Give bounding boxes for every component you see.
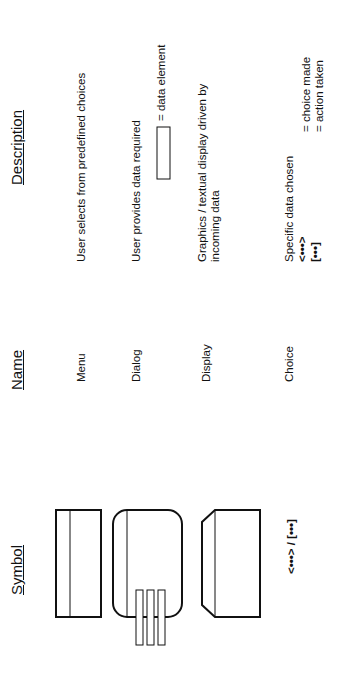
name-choice: Choice (283, 346, 296, 382)
description-display-line2: incoming data (209, 190, 222, 262)
data-element-legend: = data element (155, 45, 168, 121)
choice-made-symbol: <•••> (296, 236, 309, 262)
choice-symbol-text: <•••> / [•••] (285, 519, 298, 574)
dialog-symbol-icon (113, 510, 182, 645)
description-choice: Specific data chosen (283, 156, 296, 262)
data-element-box-icon (157, 127, 170, 179)
name-menu: Menu (75, 353, 88, 382)
action-taken-meaning: = action taken (313, 60, 326, 132)
symbol-legend-diagram: Symbol Name Description <•••> / [•••] Me… (0, 0, 342, 699)
menu-symbol-icon (56, 510, 101, 617)
choice-made-meaning: = choice made (300, 57, 313, 132)
name-display: Display (200, 344, 213, 382)
display-symbol-icon (202, 510, 260, 617)
action-taken-symbol: [•••] (309, 242, 322, 262)
description-menu: User selects from predefined choices (75, 73, 88, 262)
description-dialog: User provides data required (130, 120, 143, 262)
description-display-line1: Graphics / textual display driven by (196, 84, 209, 262)
name-dialog: Dialog (130, 349, 143, 382)
